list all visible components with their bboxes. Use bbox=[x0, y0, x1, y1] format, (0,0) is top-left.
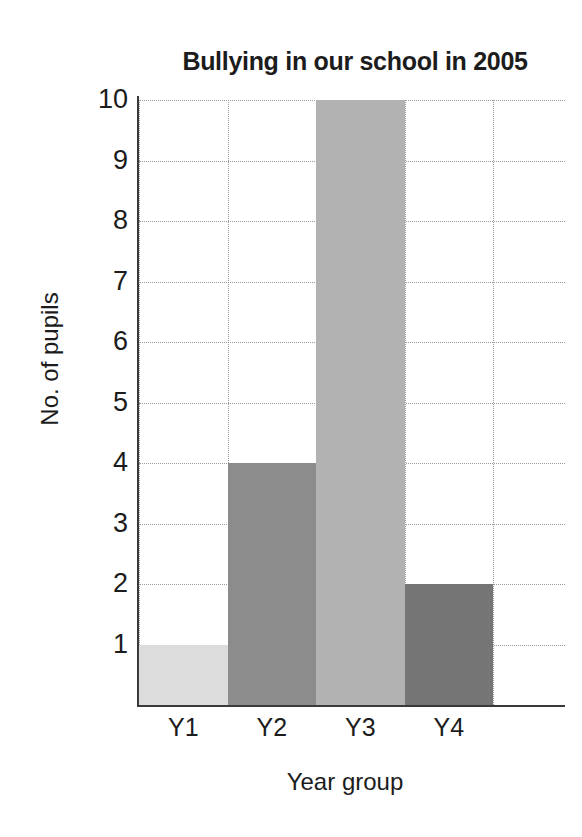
y-tick-label: 3 bbox=[68, 510, 128, 537]
bar-y2 bbox=[228, 463, 317, 705]
gridline-vertical bbox=[493, 100, 494, 705]
bars-container bbox=[139, 100, 493, 705]
x-axis-line bbox=[137, 705, 565, 707]
x-axis-tick-labels: Y1Y2Y3Y4 bbox=[139, 713, 493, 753]
chart-title: Bullying in our school in 2005 bbox=[140, 47, 570, 76]
y-axis-tick-labels: 12345678910 bbox=[64, 0, 128, 837]
y-tick-label: 8 bbox=[68, 207, 128, 234]
y-tick-label: 10 bbox=[68, 86, 128, 113]
x-axis-title: Year group bbox=[139, 768, 551, 796]
bar-y4 bbox=[405, 584, 494, 705]
y-tick-label: 6 bbox=[68, 328, 128, 355]
x-tick-label: Y1 bbox=[139, 713, 228, 742]
x-tick-label: Y3 bbox=[316, 713, 405, 742]
y-tick-label: 2 bbox=[68, 570, 128, 597]
y-tick-label: 9 bbox=[68, 147, 128, 174]
plot-area bbox=[139, 100, 565, 705]
y-axis-title: No. of pupils bbox=[36, 249, 64, 469]
y-tick-label: 4 bbox=[68, 449, 128, 476]
y-tick-label: 7 bbox=[68, 268, 128, 295]
x-tick-label: Y2 bbox=[228, 713, 317, 742]
bar-chart-figure: Bullying in our school in 2005 No. of pu… bbox=[0, 0, 582, 837]
bar-y3 bbox=[316, 100, 405, 705]
x-tick-label: Y4 bbox=[405, 713, 494, 742]
bar-y1 bbox=[139, 645, 228, 706]
y-tick-label: 5 bbox=[68, 389, 128, 416]
y-tick-label: 1 bbox=[68, 631, 128, 658]
